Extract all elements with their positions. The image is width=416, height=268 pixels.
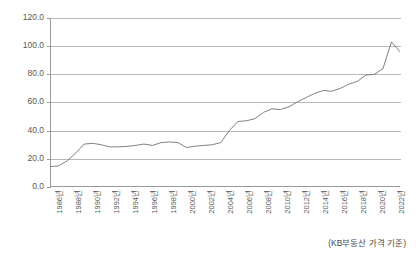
y-axis-tick-label: 60.0: [0, 97, 44, 106]
x-axis-tick-label: 2000년: [189, 190, 197, 236]
x-axis-tick-label: 2012년: [303, 190, 311, 236]
x-axis-tick-label: 1994년: [132, 190, 140, 236]
x-axis-tick-label: 2014년: [322, 190, 330, 236]
x-axis-tick-label: 2010년: [284, 190, 292, 236]
x-axis-tick-label: 1998년: [170, 190, 178, 236]
y-axis-tick-label: 20.0: [0, 154, 44, 163]
x-axis-tick-label: 1988년: [75, 190, 83, 236]
y-axis-tick-label: 100.0: [0, 41, 44, 50]
x-axis-tick-label: 2022년: [398, 190, 406, 236]
x-axis-tick-label: 2008년: [265, 190, 273, 236]
series-path: [50, 42, 400, 167]
y-axis-tick-label: 80.0: [0, 69, 44, 78]
x-axis-tick-label: 2020년: [379, 190, 387, 236]
x-axis-tick-label: 2004년: [227, 190, 235, 236]
x-axis-tick-label: 1996년: [151, 190, 159, 236]
x-axis-tick-label: 2018년: [360, 190, 368, 236]
chart-container: 120.0 100.0 80.0 60.0 40.0 20.0 0.0 1986…: [0, 0, 416, 268]
x-axis-tick-label: 1992년: [113, 190, 121, 236]
x-axis-tick-label: 1990년: [94, 190, 102, 236]
x-axis-tick-label: 1986년: [56, 190, 64, 236]
x-axis-tick-label: 2006년: [246, 190, 254, 236]
y-axis-tick-label: 40.0: [0, 126, 44, 135]
x-axis-tick-label: 2002년: [208, 190, 216, 236]
source-note: (KB부동산 가격 기준): [328, 238, 406, 248]
y-axis-tick-label: 120.0: [0, 13, 44, 22]
x-axis-tick-label: 2016년: [341, 190, 349, 236]
y-axis-tick-label: 0.0: [0, 182, 44, 191]
series-line-chart: [50, 18, 400, 187]
y-tick-0: [47, 187, 51, 188]
